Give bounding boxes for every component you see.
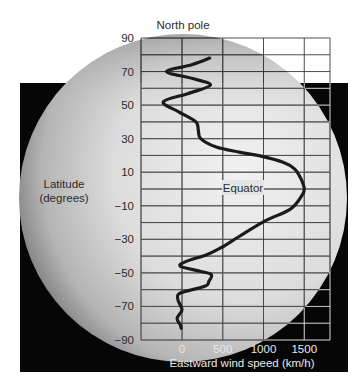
wind-speed-chart: 9070503010−10−30−50−70−90 050010001500 N…	[0, 0, 363, 389]
y-tick-label: −30	[114, 233, 134, 245]
chart-canvas: 9070503010−10−30−50−70−90 050010001500 N…	[0, 0, 363, 389]
y-tick-label: −10	[114, 200, 134, 212]
y-tick-label: 50	[121, 99, 134, 111]
y-tick-label: 70	[121, 66, 134, 78]
x-tick-label: 1000	[251, 343, 277, 355]
y-tick-label: −90	[114, 334, 134, 346]
y-tick-label: 10	[121, 166, 134, 178]
x-axis-title: Eastward wind speed (km/h)	[169, 357, 314, 369]
y-tick-label: −70	[114, 300, 134, 312]
y-tick-label: 30	[121, 133, 134, 145]
x-tick-label: 0	[179, 343, 185, 355]
y-tick-label: −50	[114, 267, 134, 279]
x-tick-label: 1500	[291, 343, 317, 355]
x-tick-label: 500	[213, 343, 232, 355]
y-tick-label: 90	[121, 32, 134, 44]
latitude-label-line2: (degrees)	[39, 192, 88, 204]
north-pole-label: North pole	[156, 19, 209, 31]
latitude-label-line1: Latitude	[44, 178, 85, 190]
equator-label: Equator	[223, 182, 263, 194]
